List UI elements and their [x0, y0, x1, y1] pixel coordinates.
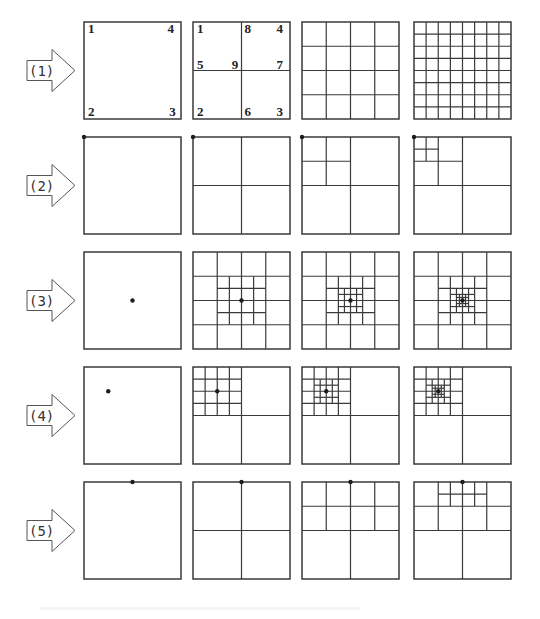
focus-point-dot — [348, 480, 352, 484]
grid-panel — [412, 135, 511, 234]
grid-panel: 1423 — [84, 21, 181, 119]
corner-label: 9 — [232, 57, 239, 72]
grid-panel — [302, 22, 399, 119]
focus-point-dot — [130, 480, 134, 484]
corner-label: 6 — [244, 104, 251, 119]
focus-point-dot — [348, 298, 352, 302]
row-arrow-icon: (4) — [27, 395, 75, 437]
focus-point-dot — [215, 389, 219, 393]
grid-panel — [302, 480, 399, 579]
grid-panel — [414, 367, 511, 464]
focus-point-dot — [239, 480, 243, 484]
grid-panel — [193, 252, 290, 349]
corner-label: 3 — [169, 104, 176, 119]
corner-label: 5 — [197, 57, 204, 72]
row-2: (2) — [27, 135, 511, 234]
focus-point-dot — [436, 389, 440, 393]
focus-point-dot — [130, 298, 134, 302]
corner-label: 4 — [276, 21, 283, 36]
panel-border — [84, 137, 181, 234]
grid-panel — [84, 252, 181, 349]
grid-panel — [193, 367, 290, 464]
grid-panel — [414, 480, 511, 579]
panel-border — [84, 482, 181, 579]
focus-point-dot — [324, 389, 328, 393]
focus-point-dot — [239, 298, 243, 302]
row-label: (3) — [29, 293, 54, 309]
row-4: (4) — [27, 367, 511, 464]
grid-panel — [300, 135, 399, 234]
grid-panel — [302, 252, 399, 349]
corner-label: 2 — [197, 104, 204, 119]
corner-label: 8 — [244, 21, 251, 36]
row-label: (2) — [29, 178, 54, 194]
corner-label: 7 — [276, 57, 283, 72]
focus-point-dot — [191, 135, 195, 139]
row-1: (1)1423184597263 — [27, 21, 511, 119]
corner-label: 4 — [167, 21, 174, 36]
subdivision-diagram: (1)1423184597263(2)(3)(4)(5) — [0, 0, 540, 619]
corner-label: 1 — [197, 21, 204, 36]
grid-panel — [193, 480, 290, 579]
row-3: (3) — [27, 252, 511, 349]
row-arrow-icon: (3) — [27, 280, 75, 322]
focus-point-dot — [412, 135, 416, 139]
grid-panel — [414, 22, 511, 119]
grid-panel — [84, 367, 181, 464]
row-label: (5) — [29, 523, 54, 539]
row-label: (1) — [29, 63, 54, 79]
diagram-canvas: (1)1423184597263(2)(3)(4)(5) — [0, 0, 540, 619]
focus-point-dot — [460, 480, 464, 484]
focus-point-dot — [300, 135, 304, 139]
corner-label: 3 — [276, 104, 283, 119]
row-5: (5) — [27, 480, 511, 579]
grid-panel — [414, 252, 511, 349]
panel-border — [84, 367, 181, 464]
grid-panel — [191, 135, 290, 234]
faint-caption — [40, 607, 360, 610]
grid-panel — [82, 135, 181, 234]
focus-point-dot — [106, 389, 110, 393]
focus-point-dot — [82, 135, 86, 139]
panel-border — [84, 22, 181, 119]
row-arrow-icon: (2) — [27, 165, 75, 207]
focus-point-dot — [460, 298, 464, 302]
corner-label: 2 — [88, 104, 95, 119]
row-arrow-icon: (5) — [27, 510, 75, 552]
row-label: (4) — [29, 408, 54, 424]
corner-label: 1 — [88, 21, 95, 36]
grid-panel: 184597263 — [193, 21, 290, 119]
grid-panel — [302, 367, 399, 464]
row-arrow-icon: (1) — [27, 50, 75, 92]
grid-panel — [84, 480, 181, 579]
